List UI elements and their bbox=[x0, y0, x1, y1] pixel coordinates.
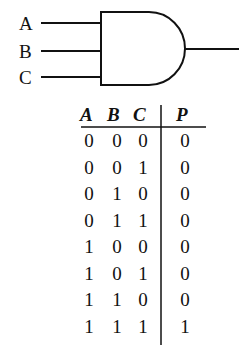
header-p: P bbox=[176, 105, 188, 124]
table-cell: 1 bbox=[107, 184, 127, 203]
table-cell: 0 bbox=[107, 158, 127, 177]
table-cell: 1 bbox=[107, 290, 127, 309]
table-cell: 0 bbox=[133, 131, 153, 150]
table-cell: 1 bbox=[133, 158, 153, 177]
table-cell: 0 bbox=[175, 290, 195, 309]
table-cell: 1 bbox=[175, 317, 195, 336]
header-a: A bbox=[80, 105, 93, 124]
table-cell: 0 bbox=[79, 184, 99, 203]
table-cell: 0 bbox=[107, 237, 127, 256]
table-cell: 0 bbox=[175, 158, 195, 177]
header-c: C bbox=[133, 105, 146, 124]
table-cell: 0 bbox=[133, 184, 153, 203]
header-b: B bbox=[107, 105, 120, 124]
table-cell: 1 bbox=[79, 264, 99, 283]
input-label-c: C bbox=[19, 68, 32, 87]
table-cell: 0 bbox=[175, 264, 195, 283]
table-cell: 0 bbox=[175, 131, 195, 150]
table-cell: 0 bbox=[175, 184, 195, 203]
table-cell: 0 bbox=[79, 211, 99, 230]
table-cell: 0 bbox=[107, 264, 127, 283]
table-cell: 1 bbox=[79, 237, 99, 256]
table-cell: 1 bbox=[133, 264, 153, 283]
table-cell: 0 bbox=[79, 131, 99, 150]
table-cell: 0 bbox=[107, 131, 127, 150]
table-cell: 0 bbox=[175, 237, 195, 256]
and-gate-body bbox=[101, 12, 185, 85]
table-cell: 1 bbox=[133, 211, 153, 230]
table-cell: 1 bbox=[133, 317, 153, 336]
table-cell: 0 bbox=[79, 158, 99, 177]
table-cell: 1 bbox=[107, 317, 127, 336]
table-cell: 0 bbox=[133, 290, 153, 309]
table-cell: 1 bbox=[79, 317, 99, 336]
table-cell: 0 bbox=[175, 211, 195, 230]
table-cell: 0 bbox=[133, 237, 153, 256]
table-cell: 1 bbox=[79, 290, 99, 309]
input-label-b: B bbox=[19, 42, 32, 61]
table-cell: 1 bbox=[107, 211, 127, 230]
input-label-a: A bbox=[19, 14, 33, 33]
